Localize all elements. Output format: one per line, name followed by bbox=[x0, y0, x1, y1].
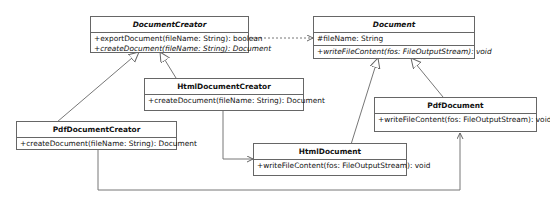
method-abstract: +createDocument(fileName: String): Docum… bbox=[94, 44, 245, 54]
methods-section: +writeFileContent(fos: FileOutputStream)… bbox=[254, 160, 406, 172]
class-document[interactable]: Document #fileName: String +writeFileCon… bbox=[313, 16, 475, 59]
generalization-pdfdoc-to-document bbox=[411, 58, 443, 97]
uml-class-diagram: DocumentCreator +exportDocument(fileName… bbox=[0, 0, 550, 203]
methods-section: +writeFileContent(fos: FileOutputStream)… bbox=[375, 114, 536, 126]
class-html-document[interactable]: HtmlDocument +writeFileContent(fos: File… bbox=[253, 143, 407, 176]
class-name: HtmlDocumentCreator bbox=[145, 79, 303, 95]
class-pdf-document[interactable]: PdfDocument +writeFileContent(fos: FileO… bbox=[374, 97, 537, 132]
class-name: PdfDocument bbox=[375, 98, 536, 114]
methods-section: +createDocument(fileName: String): Docum… bbox=[145, 95, 303, 107]
method: +writeFileContent(fos: FileOutputStream)… bbox=[378, 115, 533, 125]
method: +createDocument(fileName: String): Docum… bbox=[148, 96, 300, 106]
class-document-creator[interactable]: DocumentCreator +exportDocument(fileName… bbox=[90, 16, 249, 53]
class-html-document-creator[interactable]: HtmlDocumentCreator +createDocument(file… bbox=[144, 78, 304, 111]
methods-section: +exportDocument(fileName: String): boole… bbox=[91, 33, 248, 55]
methods-section: +createDocument(fileName: String): Docum… bbox=[17, 138, 176, 150]
method-abstract: +writeFileContent(fos: FileOutputStream)… bbox=[317, 47, 471, 57]
attributes-section: #fileName: String bbox=[314, 33, 474, 46]
association-htmlcreator-to-htmldoc bbox=[223, 110, 253, 159]
method: +exportDocument(fileName: String): boole… bbox=[94, 34, 245, 44]
method: +writeFileContent(fos: FileOutputStream)… bbox=[257, 161, 403, 171]
generalization-pdfcreator-to-creator bbox=[57, 52, 139, 122]
class-name: PdfDocumentCreator bbox=[17, 122, 176, 138]
class-name: DocumentCreator bbox=[91, 17, 248, 33]
method: +createDocument(fileName: String): Docum… bbox=[20, 139, 173, 149]
class-name: HtmlDocument bbox=[254, 144, 406, 160]
generalization-htmlcreator-to-creator bbox=[160, 52, 176, 78]
class-pdf-document-creator[interactable]: PdfDocumentCreator +createDocument(fileN… bbox=[16, 121, 177, 150]
methods-section: +writeFileContent(fos: FileOutputStream)… bbox=[314, 46, 474, 58]
class-name: Document bbox=[314, 17, 474, 33]
attribute: #fileName: String bbox=[317, 34, 471, 44]
